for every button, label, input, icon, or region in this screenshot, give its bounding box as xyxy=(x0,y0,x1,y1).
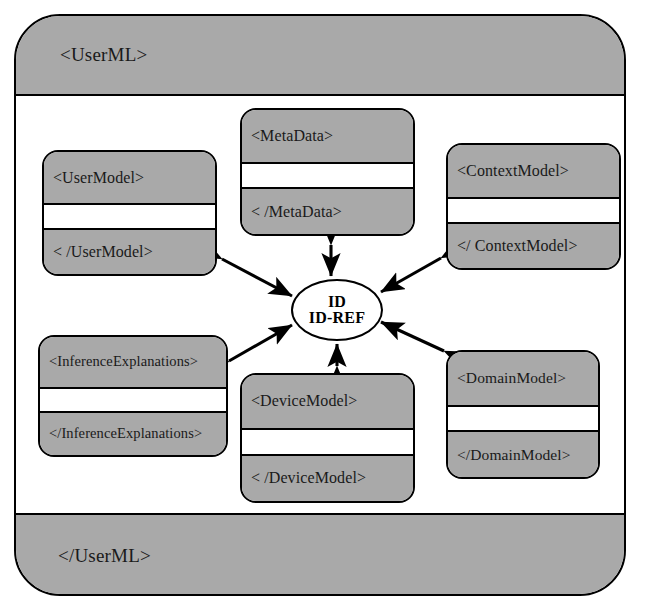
node-inferenceexplanations-open-row: <InferenceExplanations> xyxy=(40,337,226,387)
node-usermodel-body-row xyxy=(44,203,215,230)
node-contextmodel[interactable]: <ContextModel> </ ContextModel> xyxy=(446,143,621,270)
node-inferenceexplanations-close-tag: </InferenceExplanations> xyxy=(49,425,202,442)
node-usermodel-close-row: < /UserModel> xyxy=(44,230,215,274)
node-usermodel-open-row: <UserModel> xyxy=(44,152,215,203)
node-contextmodel-close-tag: </ ContextModel> xyxy=(457,237,578,255)
node-devicemodel-close-tag: < /DeviceModel> xyxy=(251,469,366,487)
node-domainmodel[interactable]: <DomainModel> </DomainModel> xyxy=(446,350,600,479)
node-metadata[interactable]: <MetaData> < /MetaData> xyxy=(240,108,415,236)
node-domainmodel-open-tag: <DomainModel> xyxy=(457,369,566,387)
node-usermodel-close-tag: < /UserModel> xyxy=(53,243,153,261)
hub-label-id: ID xyxy=(328,294,346,310)
node-metadata-body-row xyxy=(242,162,413,189)
node-devicemodel-open-row: <DeviceModel> xyxy=(242,375,413,428)
hub-label-idref: ID-REF xyxy=(309,310,365,326)
id-idref-hub[interactable]: ID ID-REF xyxy=(291,279,383,341)
node-domainmodel-close-tag: </DomainModel> xyxy=(457,446,571,464)
node-domainmodel-open-row: <DomainModel> xyxy=(448,352,598,405)
node-contextmodel-body-row xyxy=(448,197,619,224)
node-contextmodel-open-row: <ContextModel> xyxy=(448,145,619,197)
diagram-canvas: <UserML> </UserML> <UserModel> < /UserM xyxy=(0,0,646,614)
node-devicemodel-close-row: < /DeviceModel> xyxy=(242,456,413,501)
node-inferenceexplanations-close-row: </InferenceExplanations> xyxy=(40,413,226,455)
connector-inference xyxy=(229,325,292,361)
node-contextmodel-open-tag: <ContextModel> xyxy=(457,162,569,180)
node-contextmodel-close-row: </ ContextModel> xyxy=(448,224,619,268)
node-metadata-open-row: <MetaData> xyxy=(242,110,413,162)
connector-contextmodel xyxy=(381,258,441,292)
node-metadata-close-tag: < /MetaData> xyxy=(251,203,342,221)
node-devicemodel[interactable]: <DeviceModel> < /DeviceModel> xyxy=(240,373,415,503)
node-metadata-open-tag: <MetaData> xyxy=(251,127,333,145)
connector-domainmodel xyxy=(381,322,444,351)
node-usermodel[interactable]: <UserModel> < /UserModel> xyxy=(42,150,217,276)
node-inferenceexplanations[interactable]: <InferenceExplanations> </InferenceExpla… xyxy=(38,335,228,457)
node-inferenceexplanations-body-row xyxy=(40,387,226,413)
node-usermodel-open-tag: <UserModel> xyxy=(53,169,144,187)
node-metadata-close-row: < /MetaData> xyxy=(242,189,413,234)
node-domainmodel-close-row: </DomainModel> xyxy=(448,432,598,477)
connector-usermodel xyxy=(222,259,292,296)
node-domainmodel-body-row xyxy=(448,405,598,433)
node-inferenceexplanations-open-tag: <InferenceExplanations> xyxy=(49,353,198,370)
node-devicemodel-body-row xyxy=(242,428,413,456)
node-devicemodel-open-tag: <DeviceModel> xyxy=(251,392,357,410)
